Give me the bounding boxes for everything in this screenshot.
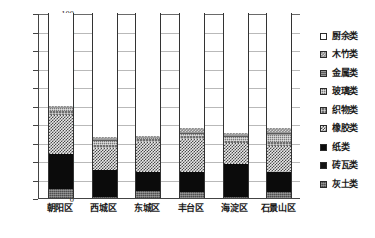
bar-segment-纸类 (48, 154, 74, 189)
legend-label-纸类: 纸类 (332, 143, 349, 152)
bar-segment-厨余类 (223, 13, 249, 133)
legend-label-金属类: 金属类 (332, 69, 358, 78)
legend-swatch-icon-织物类 (320, 107, 327, 114)
legend-item-灰土类[interactable]: 灰土类 (320, 175, 375, 194)
bar-segment-厨余类 (48, 13, 74, 106)
gridline-50 (39, 107, 300, 108)
legend-label-玻璃类: 玻璃类 (332, 87, 358, 96)
legend-swatch-icon-金属类 (320, 70, 327, 77)
bar-石景山区 (266, 13, 292, 198)
bar-segment-橡胶类 (135, 142, 161, 173)
legend-item-纸类[interactable]: 纸类 (320, 138, 375, 157)
gridline-70 (39, 70, 300, 71)
legend-swatch-icon-玻璃类 (320, 88, 327, 95)
bar-segment-灰土类 (92, 197, 118, 198)
legend-label-木竹类: 木竹类 (332, 50, 358, 59)
legend-swatch-icon-纸类 (320, 144, 327, 151)
legend-label-厨余类: 厨余类 (332, 32, 358, 41)
bar-segment-灰土类 (266, 192, 292, 198)
bar-segment-纸类 (92, 170, 118, 197)
legend-label-织物类: 织物类 (332, 106, 358, 115)
bar-segment-橡胶类 (266, 146, 292, 172)
legend-swatch-icon-厨余类 (320, 33, 327, 40)
gridline-30 (39, 144, 300, 145)
gridline-20 (39, 162, 300, 163)
legend-swatch-icon-灰土类 (320, 181, 327, 188)
bar-segment-橡胶类 (223, 143, 249, 164)
x-tick-label-石景山区: 石景山区 (247, 203, 309, 214)
bar-segment-纸类 (179, 172, 205, 191)
chart-legend: 厨余类木竹类金属类玻璃类织物类橡胶类纸类砖瓦类灰土类 (320, 27, 375, 194)
bar-segment-纸类 (135, 172, 161, 191)
bar-segment-厨余类 (92, 13, 118, 137)
legend-item-木竹类[interactable]: 木竹类 (320, 46, 375, 65)
legend-item-厨余类[interactable]: 厨余类 (320, 27, 375, 46)
gridline-10 (39, 181, 300, 182)
gridline-100 (39, 14, 300, 15)
bar-西城区 (92, 13, 118, 198)
bar-segment-厨余类 (266, 13, 292, 128)
bar-segment-灰土类 (179, 192, 205, 198)
bar-segment-灰土类 (48, 189, 74, 198)
bar-segment-灰土类 (135, 191, 161, 198)
legend-label-砖瓦类: 砖瓦类 (332, 161, 358, 170)
bar-segment-纸类 (223, 164, 249, 197)
bar-segment-橡胶类 (92, 148, 118, 170)
stacked-bar-chart: 0102030405060708090100 朝阳区西城区东城区丰台区海淀区石景… (0, 0, 375, 238)
bar-segment-橡胶类 (179, 139, 205, 172)
bar-segment-橡胶类 (48, 115, 74, 154)
bar-segment-纸类 (266, 172, 292, 191)
gridline-40 (39, 125, 300, 126)
gridline-60 (39, 88, 300, 89)
bar-东城区 (135, 13, 161, 198)
legend-item-橡胶类[interactable]: 橡胶类 (320, 120, 375, 139)
gridline-80 (39, 51, 300, 52)
legend-swatch-icon-橡胶类 (320, 125, 327, 132)
legend-swatch-icon-砖瓦类 (320, 162, 327, 169)
bar-丰台区 (179, 13, 205, 198)
legend-item-金属类[interactable]: 金属类 (320, 64, 375, 83)
bar-segment-灰土类 (223, 197, 249, 198)
legend-label-橡胶类: 橡胶类 (332, 124, 358, 133)
bar-segment-厨余类 (179, 13, 205, 128)
bar-segment-厨余类 (135, 13, 161, 136)
gridline-90 (39, 33, 300, 34)
legend-label-灰土类: 灰土类 (332, 180, 358, 189)
legend-swatch-icon-木竹类 (320, 51, 327, 58)
y-tick-mark-0 (33, 199, 38, 200)
plot-area (38, 14, 300, 199)
legend-item-玻璃类[interactable]: 玻璃类 (320, 83, 375, 102)
bar-朝阳区 (48, 13, 74, 198)
legend-item-砖瓦类[interactable]: 砖瓦类 (320, 157, 375, 176)
bar-海淀区 (223, 13, 249, 198)
legend-item-织物类[interactable]: 织物类 (320, 101, 375, 120)
